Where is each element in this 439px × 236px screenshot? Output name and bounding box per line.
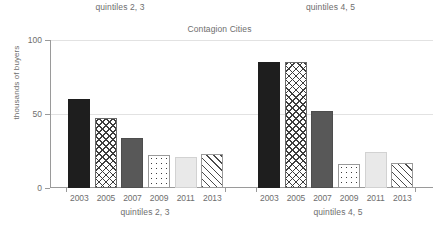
bar-slot — [172, 40, 199, 188]
bar-right-2009[interactable] — [338, 164, 360, 188]
bottom-facet-label-right: quintiles 4, 5 — [243, 207, 433, 221]
bar-right-2003[interactable] — [258, 62, 280, 188]
facet-strip-row: quintiles 2, 3 quintiles 4, 5 — [0, 0, 439, 18]
y-axis-title: thousands of buyers — [12, 23, 21, 143]
bar-slot — [119, 40, 146, 188]
x-label-right-2013: 2013 — [389, 193, 416, 203]
x-label-left-2005: 2005 — [93, 193, 120, 203]
x-axis-labels-right: 2003 2005 2007 2009 2011 2013 — [256, 193, 416, 205]
bar-right-2007[interactable] — [311, 111, 333, 188]
x-label-left-2007: 2007 — [119, 193, 146, 203]
bar-slot — [283, 40, 310, 188]
bar-left-2009[interactable] — [148, 155, 170, 188]
panel-quintiles-2-3 — [66, 40, 226, 188]
bar-slot — [93, 40, 120, 188]
x-label-right-2005: 2005 — [283, 193, 310, 203]
panel-right-tick-start — [256, 188, 257, 192]
x-label-right-2007: 2007 — [309, 193, 336, 203]
bar-left-2011[interactable] — [175, 157, 197, 188]
plot-area: 100 50 0 — [50, 40, 433, 188]
y-tick-label-50: 50 — [33, 109, 42, 119]
bar-left-2013[interactable] — [201, 154, 223, 188]
bar-slot — [146, 40, 173, 188]
x-label-left-2009: 2009 — [146, 193, 173, 203]
facet-strip-label-right: quintiles 4, 5 — [222, 2, 439, 12]
panel-quintiles-4-5 — [256, 40, 416, 188]
x-label-left-2003: 2003 — [66, 193, 93, 203]
bottom-facet-label-left: quintiles 2, 3 — [50, 207, 240, 221]
x-label-right-2011: 2011 — [362, 193, 389, 203]
x-label-right-2003: 2003 — [256, 193, 283, 203]
y-tick-label-0: 0 — [37, 183, 42, 193]
bar-right-2005[interactable] — [285, 62, 307, 188]
bar-left-2005[interactable] — [95, 118, 117, 188]
chart-title: Contagion Cities — [0, 24, 439, 34]
x-label-right-2009: 2009 — [336, 193, 363, 203]
panel-left-tick-start — [66, 188, 67, 192]
bar-left-2003[interactable] — [68, 99, 90, 188]
y-tick-mark-50 — [45, 114, 50, 115]
bar-right-2011[interactable] — [365, 152, 387, 188]
y-tick-mark-100 — [45, 40, 50, 41]
panel-left-tick-end — [225, 188, 226, 192]
x-label-left-2011: 2011 — [172, 193, 199, 203]
bar-slot — [362, 40, 389, 188]
chart-figure: quintiles 2, 3 quintiles 4, 5 Contagion … — [0, 0, 439, 236]
bar-slot — [389, 40, 416, 188]
bar-group-right — [256, 40, 416, 188]
bar-slot — [256, 40, 283, 188]
bar-slot — [336, 40, 363, 188]
bar-slot — [66, 40, 93, 188]
panel-right-tick-end — [415, 188, 416, 192]
bar-right-2013[interactable] — [391, 163, 413, 188]
x-axis-labels-left: 2003 2005 2007 2009 2011 2013 — [66, 193, 226, 205]
facet-strip-label-left: quintiles 2, 3 — [0, 2, 240, 12]
x-label-left-2013: 2013 — [199, 193, 226, 203]
bar-left-2007[interactable] — [121, 138, 143, 188]
bar-slot — [199, 40, 226, 188]
panel-left-ticks — [66, 188, 226, 192]
y-tick-mark-0 — [45, 188, 50, 189]
bar-group-left — [66, 40, 226, 188]
y-tick-label-100: 100 — [28, 35, 42, 45]
bar-slot — [309, 40, 336, 188]
panel-right-ticks — [256, 188, 416, 192]
